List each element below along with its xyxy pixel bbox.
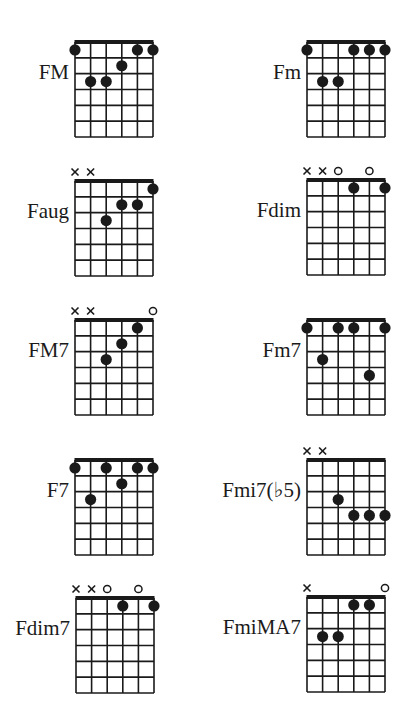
finger-dot [101, 215, 112, 226]
fretboard-grid [65, 300, 163, 425]
muted-string-icon [304, 585, 311, 592]
muted-string-icon [87, 169, 94, 176]
finger-dot [348, 322, 359, 333]
finger-dot [348, 44, 359, 55]
fretboard-grid [66, 578, 164, 703]
finger-dot [379, 44, 390, 55]
open-string-icon [104, 585, 111, 592]
muted-string-icon [319, 168, 326, 175]
finger-dot [85, 76, 96, 87]
finger-dot [379, 510, 390, 521]
fretboard-grid [297, 577, 395, 702]
finger-dot [301, 322, 312, 333]
finger-dot [333, 76, 344, 87]
fretboard-grid [65, 161, 163, 286]
finger-dot [132, 199, 143, 210]
chord-name-label: FmiMA7 [223, 615, 301, 640]
chord-name-label: Faug [27, 199, 69, 224]
fretboard-grid [297, 160, 395, 285]
nut [307, 458, 386, 462]
finger-dot [364, 370, 375, 381]
chord-chart-sheet: FMFmFaugFdimFM7Fm7F7Fmi7(♭5)Fdim7FmiMA7 [0, 0, 411, 718]
finger-dot [301, 44, 312, 55]
finger-dot [364, 510, 375, 521]
finger-dot [116, 338, 127, 349]
open-string-icon [135, 585, 142, 592]
finger-dot [116, 478, 127, 489]
finger-dot [69, 44, 80, 55]
finger-dot [148, 600, 159, 611]
finger-dot [101, 462, 112, 473]
finger-dot [317, 354, 328, 365]
finger-dot [117, 600, 128, 611]
nut [307, 595, 386, 599]
finger-dot [379, 182, 390, 193]
chord-name-label: Fdim [257, 198, 301, 223]
chord-name-label: Fdim7 [15, 616, 70, 641]
finger-dot [147, 183, 158, 194]
muted-string-icon [319, 448, 326, 455]
fretboard-grid [297, 300, 395, 425]
nut [75, 458, 154, 462]
fretboard-grid [297, 22, 395, 147]
finger-dot [333, 322, 344, 333]
finger-dot [348, 182, 359, 193]
finger-dot [69, 462, 80, 473]
finger-dot [132, 322, 143, 333]
nut [75, 318, 154, 322]
muted-string-icon [304, 168, 311, 175]
finger-dot [101, 354, 112, 365]
finger-dot [364, 44, 375, 55]
finger-dot [348, 599, 359, 610]
chord-name-label: FM7 [28, 338, 69, 363]
finger-dot [147, 44, 158, 55]
open-string-icon [366, 167, 373, 174]
nut [76, 596, 155, 600]
finger-dot [379, 322, 390, 333]
finger-dot [147, 462, 158, 473]
finger-dot [364, 599, 375, 610]
finger-dot [116, 60, 127, 71]
finger-dot [333, 631, 344, 642]
nut [75, 179, 154, 183]
open-string-icon [381, 584, 388, 591]
muted-string-icon [304, 448, 311, 455]
fretboard-grid [65, 440, 163, 565]
chord-name-label: Fmi7(♭5) [222, 478, 301, 503]
open-string-icon [149, 307, 156, 314]
muted-string-icon [88, 586, 95, 593]
nut [307, 178, 386, 182]
finger-dot [85, 494, 96, 505]
muted-string-icon [87, 308, 94, 315]
finger-dot [317, 76, 328, 87]
muted-string-icon [72, 308, 79, 315]
finger-dot [132, 44, 143, 55]
muted-string-icon [72, 169, 79, 176]
fretboard-grid [297, 440, 395, 565]
finger-dot [101, 76, 112, 87]
nut [75, 40, 154, 44]
nut [307, 318, 386, 322]
nut [307, 40, 386, 44]
fretboard-grid [65, 22, 163, 147]
chord-name-label: Fm7 [262, 338, 301, 363]
finger-dot [317, 631, 328, 642]
finger-dot [132, 462, 143, 473]
muted-string-icon [73, 586, 80, 593]
finger-dot [333, 494, 344, 505]
finger-dot [116, 199, 127, 210]
finger-dot [348, 510, 359, 521]
open-string-icon [335, 167, 342, 174]
